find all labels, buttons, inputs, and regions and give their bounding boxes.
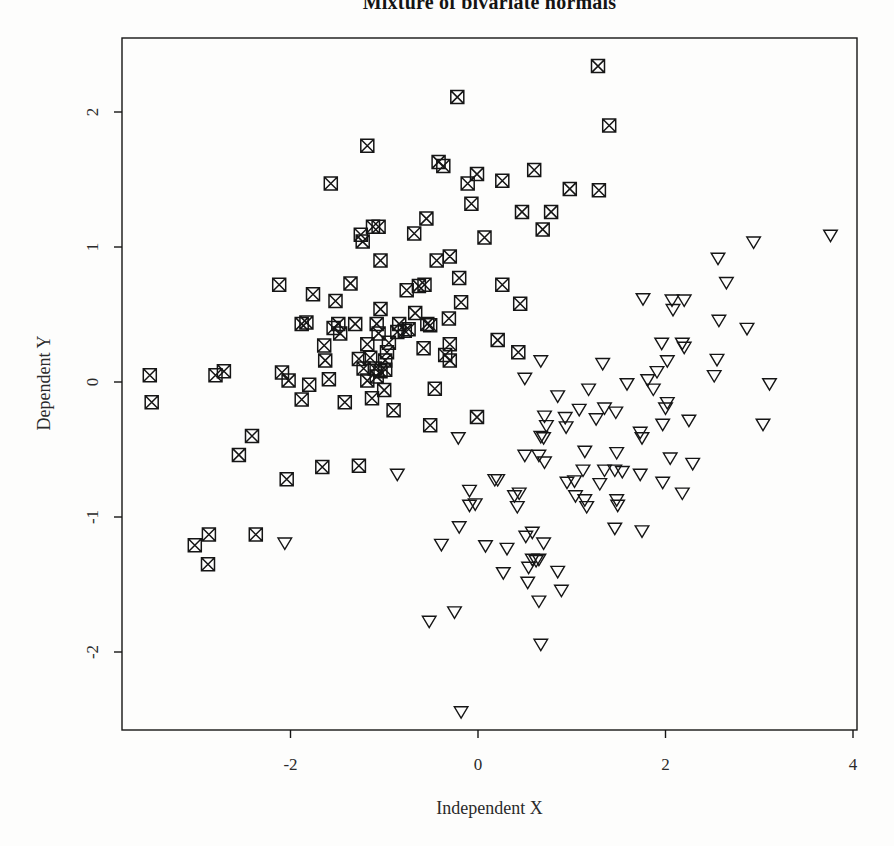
square-x-marker (307, 288, 320, 301)
triangle-down-marker (686, 458, 700, 469)
square-x-marker (246, 430, 259, 443)
triangle-down-marker (391, 469, 405, 480)
triangle-down-marker (452, 433, 466, 444)
square-x-marker (451, 91, 464, 104)
square-x-marker (249, 528, 262, 541)
y-axis-tick-label: 1 (83, 243, 102, 252)
triangle-down-marker (578, 446, 592, 457)
square-x-marker (366, 392, 379, 405)
square-x-marker (514, 297, 527, 310)
triangle-down-marker (596, 359, 610, 370)
triangle-down-marker (620, 379, 634, 390)
triangle-down-marker (756, 419, 770, 430)
triangle-down-marker (610, 448, 624, 459)
square-x-marker (280, 473, 293, 486)
square-x-marker (603, 119, 616, 132)
square-x-marker (437, 160, 450, 173)
triangle-down-marker (534, 356, 548, 367)
triangle-down-marker (655, 338, 669, 349)
triangle-down-marker (463, 485, 477, 496)
square-x-marker (374, 303, 387, 316)
square-x-marker (295, 393, 308, 406)
plot-box (122, 38, 857, 730)
scatter-plot-canvas: -2024-2-1012 (0, 0, 894, 846)
triangle-down-marker (576, 465, 590, 476)
square-x-marker (465, 197, 478, 210)
triangle-down-marker (555, 585, 569, 596)
square-x-marker (344, 277, 357, 290)
triangle-down-marker (666, 305, 680, 316)
square-x-marker (461, 177, 474, 190)
triangle-down-marker (707, 371, 721, 382)
triangle-down-marker (636, 294, 650, 305)
square-x-marker (545, 205, 558, 218)
square-x-marker (471, 411, 484, 424)
square-x-marker (430, 254, 443, 267)
triangle-down-marker (635, 526, 649, 537)
square-x-marker (420, 212, 433, 225)
triangle-down-marker (521, 577, 535, 588)
triangle-down-marker (572, 404, 586, 415)
square-x-marker (424, 419, 437, 432)
y-axis-tick-label: 0 (83, 378, 102, 387)
triangle-down-marker (824, 230, 838, 241)
triangle-down-marker (710, 354, 724, 365)
triangle-down-marker (720, 278, 734, 289)
square-x-marker (409, 307, 422, 320)
y-axis-tick-label: -2 (83, 645, 102, 659)
square-x-marker (143, 369, 156, 382)
square-x-marker (592, 60, 605, 73)
triangle-down-marker (532, 596, 546, 607)
triangle-down-marker (650, 367, 664, 378)
square-x-marker (361, 139, 374, 152)
triangle-down-marker (582, 384, 596, 395)
square-x-marker (428, 382, 441, 395)
triangle-down-marker (497, 568, 511, 579)
square-x-marker (338, 396, 351, 409)
triangle-down-marker (569, 491, 583, 502)
square-x-marker (496, 278, 509, 291)
square-x-marker (536, 223, 549, 236)
triangle-down-marker (518, 373, 532, 384)
square-x-marker (443, 250, 456, 263)
triangle-down-marker (611, 500, 625, 511)
triangle-down-marker (537, 538, 551, 549)
square-x-marker (303, 378, 316, 391)
square-x-marker (374, 254, 387, 267)
square-x-marker (352, 459, 365, 472)
x-axis-label: Independent X (122, 798, 857, 819)
square-x-marker (324, 177, 337, 190)
square-x-marker (387, 404, 400, 417)
x-axis-tick-label: 2 (661, 755, 670, 774)
triangle-down-marker (511, 502, 525, 513)
square-x-marker (528, 164, 541, 177)
square-x-marker (188, 539, 201, 552)
square-x-marker (455, 296, 468, 309)
triangle-down-marker (712, 315, 726, 326)
square-x-marker (322, 373, 335, 386)
y-axis-tick-label: 2 (83, 108, 102, 117)
square-x-marker (516, 205, 529, 218)
y-axis-tick-label: -1 (83, 510, 102, 524)
triangle-down-marker (538, 457, 552, 468)
square-x-marker (408, 227, 421, 240)
square-x-marker (329, 295, 342, 308)
square-x-marker (442, 312, 455, 325)
triangle-down-marker (633, 469, 647, 480)
triangle-down-marker (608, 523, 622, 534)
triangle-down-marker (661, 356, 675, 367)
square-x-marker (443, 354, 456, 367)
triangle-down-marker (589, 414, 603, 425)
triangle-down-marker (551, 391, 565, 402)
triangle-down-marker (422, 616, 436, 627)
triangle-down-marker (448, 607, 462, 618)
scatter-plot-page: Mixture of bivariate normals -2024-2-101… (0, 0, 894, 846)
triangle-down-marker (593, 479, 607, 490)
triangle-down-marker (278, 538, 292, 549)
square-x-marker (318, 339, 331, 352)
triangle-down-marker (763, 379, 777, 390)
square-x-marker (202, 528, 215, 541)
square-x-marker (453, 272, 466, 285)
square-x-marker (202, 558, 215, 571)
square-x-marker (563, 182, 576, 195)
